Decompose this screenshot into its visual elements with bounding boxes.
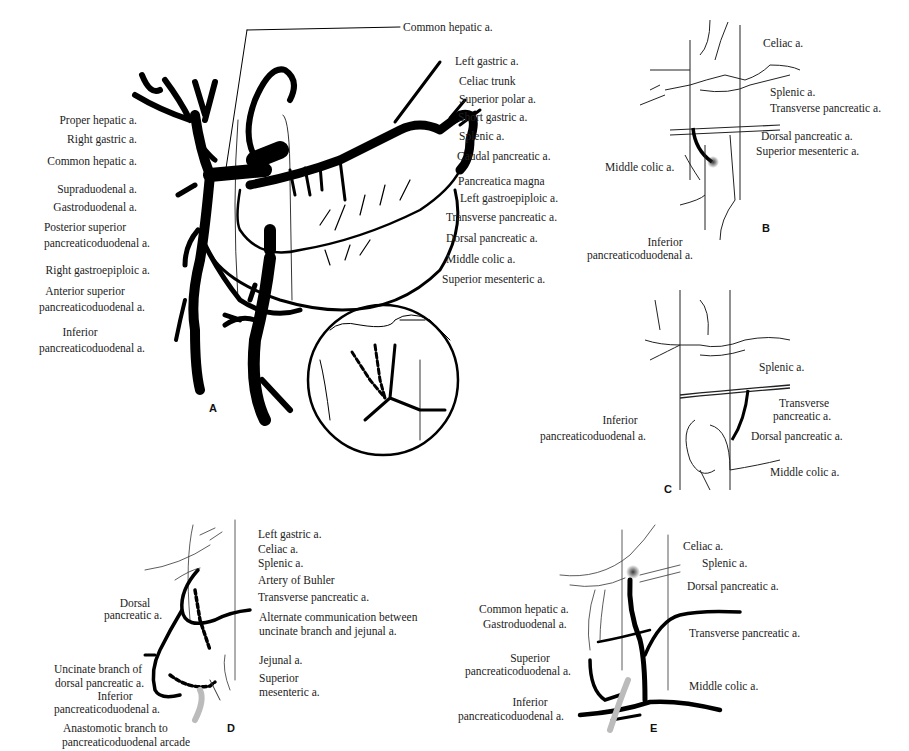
label-d-alternate-1: Alternate communication between bbox=[259, 611, 417, 624]
label-e-common-hepatic: Common hepatic a. bbox=[479, 603, 569, 616]
label-common-hepatic-left: Common hepatic a. bbox=[17, 155, 137, 168]
label-b-inferior-pd-2: pancreaticoduodenal a. bbox=[587, 249, 693, 262]
panel-letter-d: D bbox=[227, 722, 235, 734]
label-e-superior-pd-1: Superior bbox=[490, 652, 570, 665]
label-right-gastroepiploic: Right gastroepiploic a. bbox=[5, 264, 150, 277]
label-e-superior-pd-2: pancreaticoduodenal a. bbox=[465, 665, 571, 678]
label-d-anastomotic-1: Anastomotic branch to bbox=[63, 722, 168, 735]
label-posterior-superior-1: Posterior superior bbox=[15, 221, 155, 234]
label-d-artery-of-buhler: Artery of Buhler bbox=[258, 574, 335, 587]
label-left-gastric: Left gastric a. bbox=[455, 55, 519, 68]
label-inferior-pd-2: pancreaticoduodenal a. bbox=[0, 342, 145, 355]
panel-c-drawing bbox=[645, 290, 790, 490]
label-b-middle-colic: Middle colic a. bbox=[605, 161, 674, 174]
label-e-middle-colic: Middle colic a. bbox=[689, 680, 758, 693]
label-d-inferior-pd-1: Inferior bbox=[60, 690, 170, 703]
label-b-splenic: Splenic a. bbox=[770, 86, 815, 99]
label-e-celiac: Celiac a. bbox=[683, 540, 723, 553]
label-left-gastroepiploic: Left gastroepiploic a. bbox=[460, 192, 558, 205]
panel-letter-b: B bbox=[762, 222, 770, 234]
label-anterior-superior-2: pancreaticoduodenal a. bbox=[0, 301, 145, 314]
label-proper-hepatic: Proper hepatic a. bbox=[17, 114, 137, 127]
panel-letter-c: C bbox=[664, 483, 672, 495]
label-superior-mesenteric: Superior mesenteric a. bbox=[442, 273, 545, 286]
label-caudal-pancreatic: Caudal pancreatic a. bbox=[457, 150, 551, 163]
label-e-splenic: Splenic a. bbox=[702, 557, 747, 570]
label-d-celiac: Celiac a. bbox=[258, 543, 298, 556]
panel-a-drawing bbox=[135, 27, 480, 455]
label-b-celiac: Celiac a. bbox=[763, 37, 803, 50]
label-e-inferior-pd-2: pancreaticoduodenal a. bbox=[458, 710, 564, 723]
label-e-dorsal-pancreatic: Dorsal pancreatic a. bbox=[687, 580, 779, 593]
label-d-anastomotic-2: pancreaticoduodenal arcade bbox=[62, 736, 190, 749]
label-b-superior-mesenteric: Superior mesenteric a. bbox=[756, 145, 859, 158]
label-d-inferior-pd-2: pancreaticoduodenal a. bbox=[54, 703, 160, 716]
label-transverse-pancreatic: Transverse pancreatic a. bbox=[446, 211, 557, 224]
label-e-gastroduodenal: Gastroduodenal a. bbox=[483, 618, 567, 631]
label-b-inferior-pd-1: Inferior bbox=[600, 236, 730, 249]
label-d-superior-mesenteric-1: Superior bbox=[259, 672, 299, 685]
label-common-hepatic-top: Common hepatic a. bbox=[403, 21, 493, 34]
label-d-uncinate-2: dorsal pancreatic a. bbox=[55, 677, 144, 690]
label-c-splenic: Splenic a. bbox=[759, 361, 804, 374]
label-middle-colic: Middle colic a. bbox=[446, 253, 515, 266]
label-e-transverse-pancreatic: Transverse pancreatic a. bbox=[689, 627, 800, 640]
label-c-transverse-2: pancreatic a. bbox=[773, 410, 831, 423]
label-e-inferior-pd-1: Inferior bbox=[490, 696, 570, 709]
label-c-inferior-pd-1: Inferior bbox=[570, 414, 670, 427]
label-d-jejunal: Jejunal a. bbox=[259, 654, 302, 667]
label-b-dorsal-pancreatic: Dorsal pancreatic a. bbox=[761, 130, 853, 143]
label-posterior-superior-2: pancreaticoduodenal a. bbox=[5, 237, 150, 250]
label-d-superior-mesenteric-2: mesenteric a. bbox=[259, 686, 320, 699]
label-dorsal-pancreatic: Dorsal pancreatic a. bbox=[446, 232, 538, 245]
label-d-transverse-pancreatic: Transverse pancreatic a. bbox=[258, 591, 369, 604]
label-d-left-gastric: Left gastric a. bbox=[258, 528, 322, 541]
label-inferior-pd-1: Inferior bbox=[20, 326, 140, 339]
label-splenic: Splenic a. bbox=[459, 130, 504, 143]
label-d-dorsal-pancreatic-2: pancreatic a. bbox=[104, 609, 162, 622]
label-superior-polar: Superior polar a. bbox=[459, 93, 536, 106]
label-c-inferior-pd-2: pancreaticoduodenal a. bbox=[540, 430, 646, 443]
label-b-transverse-pancreatic: Transverse pancreatic a. bbox=[770, 102, 881, 115]
label-supraduodenal: Supraduodenal a. bbox=[17, 183, 137, 196]
label-d-alternate-2: uncinate branch and jejunal a. bbox=[259, 625, 397, 638]
label-c-transverse-1: Transverse bbox=[779, 397, 829, 410]
label-d-uncinate-1: Uncinate branch of bbox=[54, 663, 142, 676]
label-c-dorsal-pancreatic: Dorsal pancreatic a. bbox=[751, 430, 843, 443]
label-pancreatica-magna: Pancreatica magna bbox=[458, 175, 545, 188]
panel-letter-a: A bbox=[209, 402, 217, 414]
label-short-gastric: Short gastric a. bbox=[458, 111, 527, 124]
panel-letter-e: E bbox=[650, 722, 657, 734]
label-celiac-trunk: Celiac trunk bbox=[459, 75, 516, 88]
label-d-splenic: Splenic a. bbox=[258, 557, 303, 570]
label-anterior-superior-1: Anterior superior bbox=[15, 285, 155, 298]
label-right-gastric: Right gastric a. bbox=[17, 133, 137, 146]
label-c-middle-colic: Middle colic a. bbox=[770, 466, 839, 479]
label-gastroduodenal: Gastroduodenal a. bbox=[17, 201, 137, 214]
